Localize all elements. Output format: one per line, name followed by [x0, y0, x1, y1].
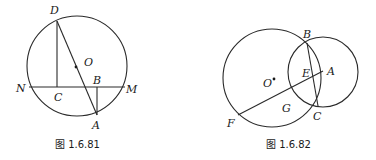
caption-figure-1-6-82: 图 1.6.82: [266, 139, 311, 150]
label-c: C: [313, 110, 322, 123]
small-circle-a: [288, 37, 358, 107]
label-f: F: [226, 117, 235, 130]
label-n: N: [15, 82, 26, 95]
label-o: O: [263, 77, 272, 90]
label-d: D: [49, 4, 59, 17]
figure-1-6-82: B C A E O F G 图 1.6.82: [223, 28, 358, 150]
label-o: O: [84, 56, 93, 69]
label-b: B: [302, 28, 311, 41]
figure-1-6-81: D O N M C B A 图 1.6.81: [15, 4, 138, 150]
label-m: M: [125, 83, 138, 96]
label-b: B: [92, 74, 101, 87]
label-g: G: [282, 102, 291, 115]
label-a: A: [326, 65, 335, 78]
circle-o: [27, 16, 127, 116]
label-a: A: [91, 119, 100, 132]
label-c: C: [54, 91, 63, 104]
caption-figure-1-6-81: 图 1.6.81: [55, 139, 100, 150]
center-dot-o: [273, 78, 276, 81]
geometry-diagram: D O N M C B A 图 1.6.81 B C A E O F G 图 1…: [0, 0, 376, 160]
center-dot-o: [75, 66, 78, 69]
label-e: E: [301, 67, 310, 80]
